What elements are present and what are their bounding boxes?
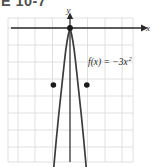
- point-right: [84, 82, 90, 88]
- point-vertex: [67, 25, 73, 31]
- equation-text: f(x) = −3x: [88, 57, 129, 68]
- graph-plot: x y f(x) = −3x 2: [0, 0, 157, 167]
- graph-svg: x y f(x) = −3x 2: [0, 0, 157, 167]
- y-axis-label: y: [66, 5, 71, 15]
- x-axis-label: x: [145, 23, 150, 33]
- point-left: [51, 82, 57, 88]
- equation-annotation: f(x) = −3x 2: [88, 55, 133, 69]
- figure-container: E 10-7: [0, 0, 157, 167]
